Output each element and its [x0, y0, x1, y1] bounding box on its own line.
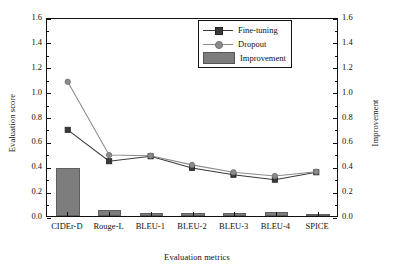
y-tick-label-right: 1.0: [342, 87, 374, 97]
y-tick-mark-right: [335, 180, 337, 181]
y-tick-mark-left: [47, 205, 49, 206]
x-tick-mark: [318, 212, 319, 216]
y-tick-mark-left: [47, 19, 51, 20]
y-tick-mark-right: [333, 168, 337, 169]
y-tick-mark-left: [47, 93, 51, 94]
marker-dropout: [231, 170, 236, 175]
marker-dropout: [148, 153, 153, 158]
legend-label: Improvement: [240, 53, 286, 63]
marker-dropout: [314, 169, 319, 174]
y-tick-mark-left: [47, 81, 49, 82]
y-tick-label-right: 1.4: [342, 37, 374, 47]
y-axis-ticks-right: 0.00.20.40.60.81.01.21.41.6: [342, 18, 378, 217]
y-tick-label-right: 0.8: [342, 112, 374, 122]
y-tick-mark-right: [333, 68, 337, 69]
y-tick-label-right: 0.4: [342, 161, 374, 171]
x-axis-ticks: CIDEr-DRouge-LBLEU-1BLEU-2BLEU-3BLEU-4SP…: [46, 220, 338, 236]
y-tick-label-right: 1.6: [342, 12, 374, 22]
chart-figure: Evaluation score Improvement Evaluation …: [0, 0, 394, 276]
y-tick-mark-left: [47, 130, 49, 131]
x-tick-label: SPICE: [289, 221, 345, 231]
y-tick-label-left: 1.0: [10, 87, 42, 97]
y-tick-mark-right: [333, 93, 337, 94]
y-tick-mark-left: [47, 56, 49, 57]
legend-bar-patch-icon: [203, 52, 235, 64]
y-tick-mark-right: [333, 19, 337, 20]
y-tick-mark-left: [47, 180, 49, 181]
y-tick-mark-right: [333, 43, 337, 44]
x-tick-mark: [67, 212, 68, 216]
y-tick-mark-right: [335, 56, 337, 57]
marker-dropout: [272, 173, 277, 178]
y-tick-label-right: 0.0: [342, 211, 374, 221]
line-fine-tuning: [68, 130, 317, 180]
y-tick-mark-right: [335, 130, 337, 131]
x-tick-mark: [193, 212, 194, 216]
legend-item-dropout: Dropout: [203, 38, 286, 50]
y-tick-mark-left: [47, 155, 49, 156]
x-tick-mark: [109, 212, 110, 216]
plot-area: [46, 18, 338, 217]
y-tick-mark-left: [47, 31, 49, 32]
x-tick-mark: [234, 212, 235, 216]
y-axis-ticks-left: 0.00.20.40.60.81.01.21.41.6: [6, 18, 42, 217]
y-tick-label-left: 0.8: [10, 112, 42, 122]
x-tick-mark: [276, 212, 277, 216]
y-tick-mark-right: [335, 106, 337, 107]
y-tick-mark-left: [47, 106, 49, 107]
y-tick-label-left: 0.4: [10, 161, 42, 171]
marker-fine-tuning: [107, 159, 112, 164]
y-tick-label-left: 1.2: [10, 62, 42, 72]
y-tick-mark-left: [47, 218, 51, 219]
y-tick-label-right: 0.2: [342, 186, 374, 196]
marker-dropout: [106, 152, 111, 157]
y-tick-label-left: 1.4: [10, 37, 42, 47]
legend-label: Fine-tuning: [238, 25, 278, 35]
y-tick-label-left: 1.6: [10, 12, 42, 22]
legend-line-circle-icon: [203, 39, 233, 49]
y-tick-mark-left: [47, 118, 51, 119]
y-tick-mark-left: [47, 43, 51, 44]
y-tick-mark-right: [335, 205, 337, 206]
x-tick-mark: [151, 212, 152, 216]
marker-dropout: [65, 79, 70, 84]
lines-layer: [47, 19, 337, 216]
legend-line-square-icon: [203, 25, 233, 35]
legend-item-fine-tuning: Fine-tuning: [203, 24, 286, 36]
y-tick-mark-right: [333, 118, 337, 119]
x-axis-label: Evaluation metrics: [0, 252, 394, 262]
y-tick-mark-left: [47, 143, 51, 144]
y-tick-label-left: 0.6: [10, 136, 42, 146]
marker-dropout: [189, 162, 194, 167]
legend-item-improvement: Improvement: [203, 52, 286, 64]
legend-label: Dropout: [238, 39, 266, 49]
y-tick-mark-left: [47, 68, 51, 69]
y-tick-mark-right: [333, 218, 337, 219]
y-tick-label-left: 0.0: [10, 211, 42, 221]
y-tick-label-right: 0.6: [342, 136, 374, 146]
marker-fine-tuning: [65, 127, 70, 132]
y-tick-mark-right: [335, 81, 337, 82]
y-tick-mark-left: [47, 193, 51, 194]
y-tick-label-right: 1.2: [342, 62, 374, 72]
chart-legend: Fine-tuning Dropout Improvement: [198, 20, 292, 68]
y-tick-label-left: 0.2: [10, 186, 42, 196]
y-tick-mark-right: [335, 31, 337, 32]
y-tick-mark-left: [47, 168, 51, 169]
y-tick-mark-right: [333, 193, 337, 194]
y-tick-mark-right: [333, 143, 337, 144]
y-tick-mark-right: [335, 155, 337, 156]
